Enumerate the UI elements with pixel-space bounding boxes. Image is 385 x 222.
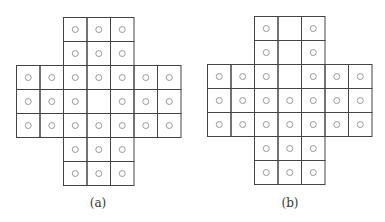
peg-icon bbox=[334, 74, 340, 80]
peg-icon bbox=[72, 171, 78, 177]
peg-icon bbox=[240, 98, 246, 104]
board-cell bbox=[158, 66, 182, 90]
peg-icon bbox=[310, 74, 316, 80]
board-cell bbox=[111, 18, 135, 42]
board-cell bbox=[278, 161, 302, 185]
board-cell bbox=[87, 162, 111, 186]
board-cell bbox=[111, 162, 135, 186]
board-cell bbox=[255, 41, 279, 65]
peg-icon bbox=[143, 99, 149, 105]
board-cell bbox=[278, 137, 302, 161]
board-cell bbox=[325, 65, 349, 89]
board-cell bbox=[302, 17, 326, 41]
board-cell bbox=[302, 65, 326, 89]
peg-icon bbox=[310, 146, 316, 152]
board-cell bbox=[40, 66, 64, 90]
peg-icon bbox=[310, 122, 316, 128]
board-cell bbox=[64, 42, 88, 66]
peg-icon bbox=[310, 98, 316, 104]
board-cell bbox=[302, 137, 326, 161]
board-cell bbox=[17, 114, 41, 138]
peg-icon bbox=[357, 122, 363, 128]
peg-icon bbox=[49, 99, 55, 105]
peg-icon bbox=[96, 147, 102, 153]
caption-b: (b) bbox=[281, 196, 298, 210]
peg-icon bbox=[334, 122, 340, 128]
peg-solitaire-boards bbox=[0, 0, 385, 222]
board-cell bbox=[111, 138, 135, 162]
board-cell bbox=[40, 90, 64, 114]
board-cell bbox=[302, 89, 326, 113]
peg-icon bbox=[143, 75, 149, 81]
board-cell bbox=[111, 42, 135, 66]
board-cell bbox=[231, 113, 255, 137]
peg-icon bbox=[216, 122, 222, 128]
board-cell bbox=[17, 90, 41, 114]
board-cell bbox=[158, 90, 182, 114]
board-cell bbox=[325, 113, 349, 137]
peg-icon bbox=[310, 170, 316, 176]
peg-icon bbox=[166, 99, 172, 105]
empty-hole bbox=[87, 90, 111, 114]
peg-icon bbox=[357, 98, 363, 104]
board-cell bbox=[255, 17, 279, 41]
peg-icon bbox=[96, 51, 102, 57]
board-cell bbox=[349, 65, 373, 89]
board-cell bbox=[64, 66, 88, 90]
peg-icon bbox=[240, 74, 246, 80]
board-cell bbox=[111, 90, 135, 114]
peg-icon bbox=[357, 74, 363, 80]
board-cell bbox=[87, 66, 111, 90]
peg-icon bbox=[72, 27, 78, 33]
board-cell bbox=[302, 161, 326, 185]
board-cell bbox=[255, 137, 279, 161]
board-cell bbox=[302, 113, 326, 137]
peg-icon bbox=[263, 98, 269, 104]
board-cell bbox=[325, 89, 349, 113]
peg-icon bbox=[96, 75, 102, 81]
peg-icon bbox=[25, 99, 31, 105]
peg-icon bbox=[119, 147, 125, 153]
peg-icon bbox=[310, 26, 316, 32]
peg-icon bbox=[119, 171, 125, 177]
board-cell bbox=[17, 66, 41, 90]
board-cell bbox=[111, 66, 135, 90]
board-cell bbox=[231, 65, 255, 89]
board-cell bbox=[278, 89, 302, 113]
board-cell bbox=[134, 66, 158, 90]
empty-hole bbox=[278, 41, 302, 65]
peg-icon bbox=[119, 99, 125, 105]
peg-icon bbox=[119, 75, 125, 81]
peg-icon bbox=[263, 170, 269, 176]
peg-icon bbox=[72, 123, 78, 129]
peg-icon bbox=[287, 122, 293, 128]
board-cell bbox=[87, 114, 111, 138]
board-cell bbox=[302, 41, 326, 65]
peg-icon bbox=[96, 171, 102, 177]
peg-icon bbox=[287, 98, 293, 104]
board-cell bbox=[64, 162, 88, 186]
peg-icon bbox=[119, 51, 125, 57]
peg-icon bbox=[310, 50, 316, 56]
board-cell bbox=[134, 90, 158, 114]
board-cell bbox=[64, 138, 88, 162]
board-cell bbox=[134, 114, 158, 138]
peg-icon bbox=[263, 122, 269, 128]
peg-icon bbox=[49, 75, 55, 81]
peg-icon bbox=[96, 27, 102, 33]
board-cell bbox=[158, 114, 182, 138]
board-cell bbox=[64, 90, 88, 114]
board-cell bbox=[231, 89, 255, 113]
board-a bbox=[17, 18, 182, 186]
peg-icon bbox=[143, 123, 149, 129]
board-cell bbox=[255, 65, 279, 89]
empty-hole bbox=[278, 65, 302, 89]
peg-icon bbox=[72, 99, 78, 105]
board-cell bbox=[64, 18, 88, 42]
peg-icon bbox=[49, 123, 55, 129]
peg-icon bbox=[25, 123, 31, 129]
caption-a: (a) bbox=[90, 196, 107, 210]
peg-icon bbox=[72, 51, 78, 57]
peg-icon bbox=[166, 123, 172, 129]
peg-icon bbox=[287, 170, 293, 176]
